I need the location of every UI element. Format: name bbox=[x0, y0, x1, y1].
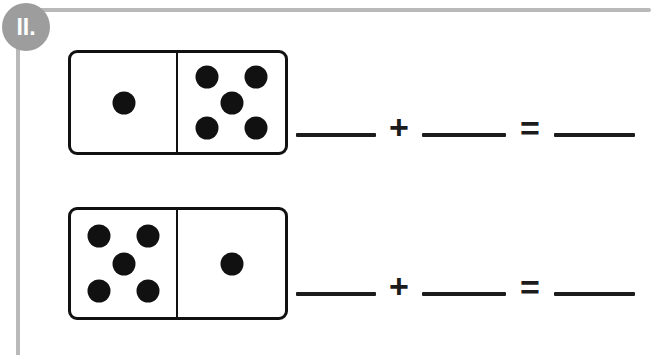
answer-blank-addend1[interactable] bbox=[296, 133, 376, 137]
answer-blank-sum[interactable] bbox=[554, 292, 635, 296]
pip bbox=[220, 252, 243, 275]
pip bbox=[136, 280, 159, 303]
domino-tile-2 bbox=[68, 207, 288, 320]
answer-blank-sum[interactable] bbox=[554, 133, 635, 137]
domino-1-left-face bbox=[71, 53, 178, 152]
pip bbox=[112, 252, 135, 275]
pip bbox=[245, 117, 268, 140]
domino-tile-1 bbox=[68, 50, 288, 155]
domino-2-right-face bbox=[178, 210, 285, 317]
worksheet-page: II. + = + bbox=[0, 0, 651, 355]
pip bbox=[136, 224, 159, 247]
pip bbox=[195, 117, 218, 140]
equals-operator: = bbox=[506, 270, 554, 304]
pip bbox=[112, 91, 135, 114]
pip bbox=[220, 91, 243, 114]
answer-blank-addend2[interactable] bbox=[422, 292, 506, 296]
equals-operator: = bbox=[506, 111, 554, 145]
pip bbox=[88, 224, 111, 247]
pip bbox=[88, 280, 111, 303]
plus-operator: + bbox=[376, 110, 422, 144]
exercise-number-badge: II. bbox=[2, 3, 50, 51]
answer-blank-addend2[interactable] bbox=[422, 133, 506, 137]
answer-blank-addend1[interactable] bbox=[296, 292, 376, 296]
section-frame-left-rail bbox=[16, 24, 20, 355]
equation-row-1: + = bbox=[296, 113, 635, 157]
equation-row-2: + = bbox=[296, 272, 635, 316]
pip bbox=[245, 65, 268, 88]
pip bbox=[195, 65, 218, 88]
section-frame-top-rule bbox=[26, 8, 651, 12]
domino-2-left-face bbox=[71, 210, 178, 317]
domino-1-right-face bbox=[178, 53, 285, 152]
plus-operator: + bbox=[376, 269, 422, 303]
